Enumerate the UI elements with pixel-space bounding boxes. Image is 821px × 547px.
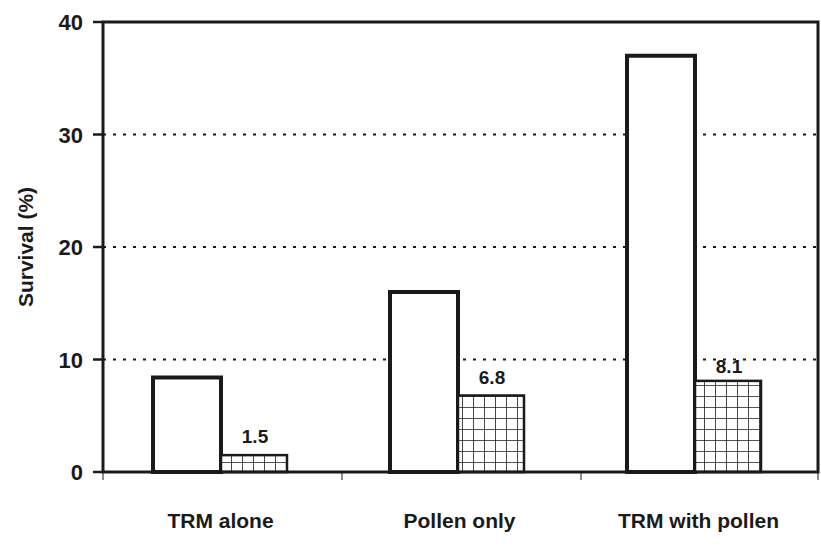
bars bbox=[153, 56, 761, 472]
data-value-label: 8.1 bbox=[716, 356, 743, 377]
data-value-label: 6.8 bbox=[479, 367, 505, 388]
y-tick-label: 30 bbox=[59, 123, 83, 148]
y-tick-label: 40 bbox=[59, 10, 83, 35]
x-category-label: TRM alone bbox=[167, 509, 273, 532]
gridlines bbox=[103, 135, 820, 360]
open-bar bbox=[390, 292, 458, 472]
data-value-label: 1.5 bbox=[242, 426, 269, 447]
y-tick-label: 0 bbox=[71, 460, 83, 485]
y-axis-title: Survival (%) bbox=[14, 187, 37, 307]
x-category-label: TRM with pollen bbox=[618, 509, 779, 532]
x-category-label: Pollen only bbox=[403, 509, 515, 532]
hatched-bar bbox=[695, 381, 761, 472]
hatched-bar bbox=[221, 455, 287, 472]
open-bar bbox=[627, 56, 695, 472]
open-bar bbox=[153, 378, 221, 473]
bar-chart: TRM alonePollen onlyTRM with pollen1.56.… bbox=[0, 0, 821, 547]
hatched-bar bbox=[458, 396, 524, 473]
y-tick-label: 20 bbox=[59, 235, 83, 260]
y-tick-label: 10 bbox=[59, 348, 83, 373]
